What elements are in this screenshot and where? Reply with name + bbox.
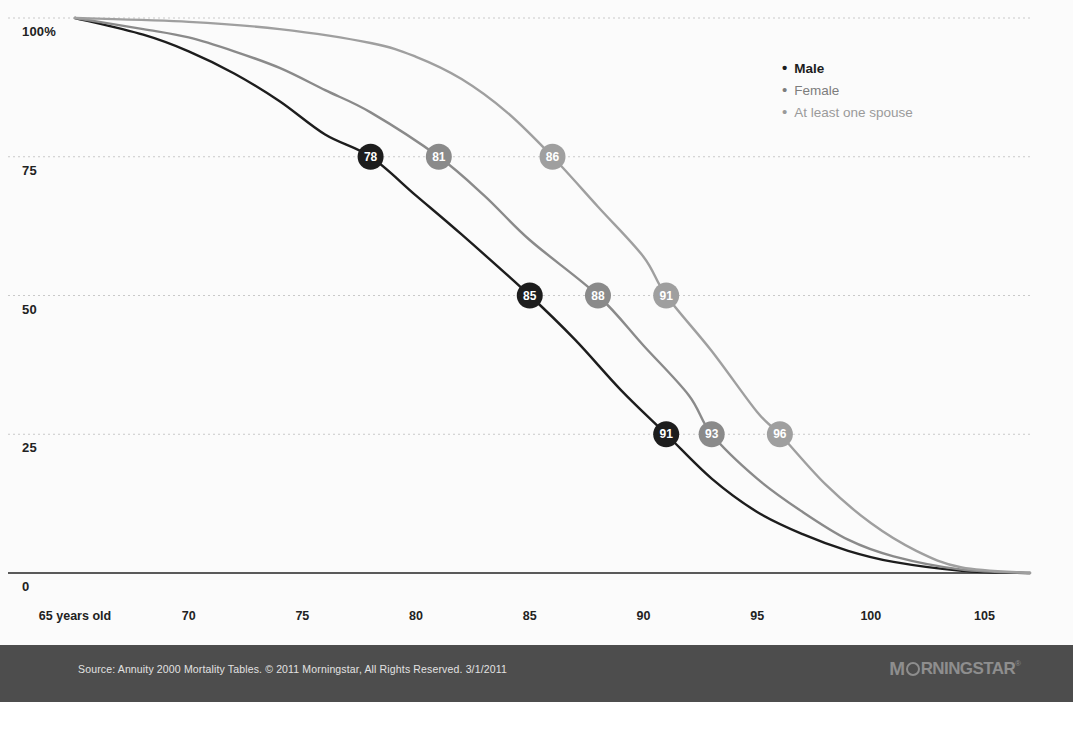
data-point-label: 78 (364, 150, 378, 164)
plot-area: 788591818893869196 100%7550250 • Male • … (0, 0, 1073, 645)
data-point-label: 91 (660, 427, 674, 441)
x-axis-tick-label: 80 (409, 609, 423, 623)
logo-letter-m: M (889, 659, 904, 678)
data-point-label: 91 (660, 289, 674, 303)
y-axis-tick-label: 75 (22, 163, 37, 178)
x-axis-tick-label: 65 years old (39, 609, 111, 623)
chart-legend: • Male • Female • At least one spouse (782, 60, 1012, 126)
y-axis-tick-label: 100% (22, 24, 56, 39)
x-axis-labels: 65 years old707580859095100105 (0, 573, 1073, 645)
x-axis-tick-label: 100 (860, 609, 881, 623)
x-axis-tick-label: 75 (295, 609, 309, 623)
data-point-label: 93 (705, 427, 719, 441)
legend-bullet-icon: • (782, 60, 787, 75)
x-axis-tick-label: 85 (523, 609, 537, 623)
chart-footer: Source: Annuity 2000 Mortality Tables. ©… (0, 645, 1073, 702)
y-axis-tick-label: 50 (22, 302, 37, 317)
chart-card: 788591818893869196 100%7550250 • Male • … (0, 0, 1073, 702)
legend-label-female: Female (794, 82, 839, 99)
data-point-label: 86 (546, 150, 560, 164)
legend-item-spouse: • At least one spouse (782, 104, 1012, 121)
x-axis-tick-label: 105 (974, 609, 995, 623)
y-axis-tick-label: 25 (22, 440, 37, 455)
chart-page: 788591818893869196 100%7550250 • Male • … (0, 0, 1073, 734)
x-axis-tick-label: 70 (182, 609, 196, 623)
legend-label-male: Male (794, 60, 824, 77)
morningstar-logo: M RNINGSTAR ® (889, 659, 1021, 678)
legend-bullet-icon: • (782, 104, 787, 119)
legend-bullet-icon: • (782, 82, 787, 97)
data-point-markers: 788591818893869196 (358, 144, 793, 448)
source-note: Source: Annuity 2000 Mortality Tables. ©… (78, 663, 507, 675)
logo-wordmark: RNINGSTAR (921, 659, 1015, 678)
logo-ring-icon (906, 662, 920, 676)
logo-registered-icon: ® (1015, 660, 1021, 668)
data-point-label: 88 (591, 289, 605, 303)
x-axis-tick-label: 95 (750, 609, 764, 623)
legend-item-female: • Female (782, 82, 1012, 99)
data-point-label: 81 (432, 150, 446, 164)
x-axis-tick-label: 90 (636, 609, 650, 623)
legend-label-spouse: At least one spouse (794, 104, 913, 121)
legend-item-male: • Male (782, 60, 1012, 77)
data-point-label: 96 (773, 427, 787, 441)
data-point-label: 85 (523, 289, 537, 303)
